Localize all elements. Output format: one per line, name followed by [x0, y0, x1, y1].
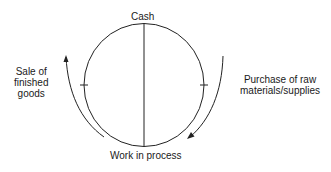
cash-label: Cash [131, 11, 154, 22]
purchase-line-2: materials/supplies [240, 85, 320, 96]
sale-of-finished-goods-label: Sale of finished goods [14, 66, 48, 99]
sale-line-2: finished [14, 77, 48, 88]
purchase-raw-materials-label: Purchase of raw materials/supplies [240, 74, 320, 96]
right-flow-arrow [190, 56, 223, 137]
left-arrowhead-icon [64, 55, 69, 62]
right-arrowhead-icon [187, 132, 195, 139]
purchase-line-1: Purchase of raw [240, 74, 320, 85]
work-in-process-label: Work in process [110, 150, 182, 161]
sale-line-1: Sale of [14, 66, 48, 77]
sale-line-3: goods [14, 88, 48, 99]
